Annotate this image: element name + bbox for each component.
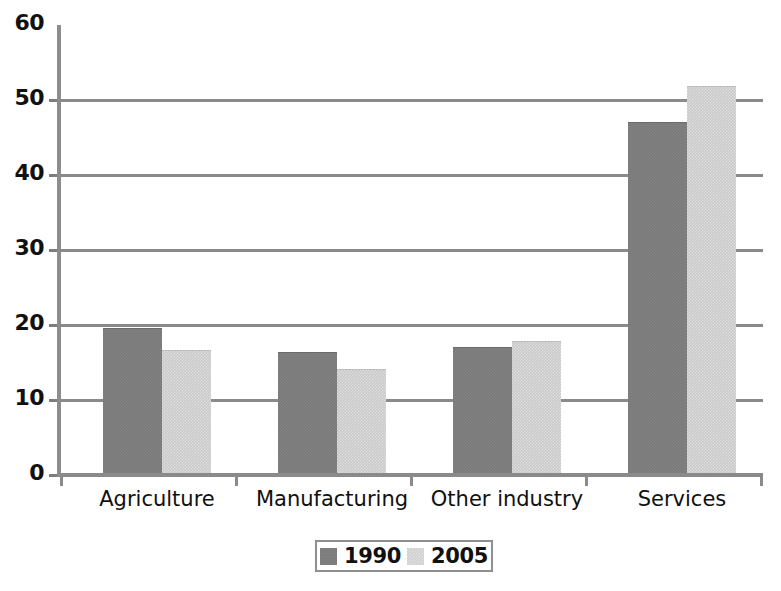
legend-label-1990: 1990 (344, 544, 401, 568)
gridline (60, 99, 763, 102)
x-axis-tick (585, 473, 588, 486)
x-axis-tick (60, 473, 63, 486)
legend-entry-2005: 2005 (407, 544, 488, 568)
y-axis-tick-label: 0 (0, 460, 44, 485)
dark-gray-swatch-icon (320, 548, 337, 565)
y-axis-tick-label: 60 (0, 10, 44, 35)
bar-2005-other-industry (512, 341, 561, 475)
bar-2005-manufacturing (337, 369, 386, 475)
plot-area (60, 25, 763, 475)
x-axis-category-label: Services (572, 487, 781, 511)
light-gray-swatch-icon (407, 548, 424, 565)
bar-2005-agriculture (162, 350, 211, 475)
x-axis-tick (760, 473, 763, 486)
bar-2005-services (687, 86, 736, 476)
chart-legend: 1990 2005 (315, 540, 493, 572)
legend-label-2005: 2005 (431, 544, 488, 568)
bar-1990-other-industry (453, 347, 512, 476)
bar-1990-agriculture (103, 328, 162, 475)
x-axis-tick (410, 473, 413, 486)
y-axis-tick-label: 50 (0, 85, 44, 110)
y-axis-tick-label: 10 (0, 385, 44, 410)
bar-1990-services (628, 122, 687, 476)
bar-chart: 0102030405060 AgricultureManufacturingOt… (0, 0, 781, 591)
y-axis-tick-label: 30 (0, 235, 44, 260)
y-axis-tick-label: 40 (0, 160, 44, 185)
x-axis-tick (235, 473, 238, 486)
legend-entry-1990: 1990 (320, 544, 401, 568)
bar-1990-manufacturing (278, 352, 337, 475)
y-axis-tick-label: 20 (0, 310, 44, 335)
